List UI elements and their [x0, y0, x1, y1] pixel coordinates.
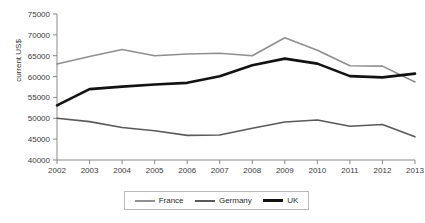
x-tick-label: 2003: [81, 166, 99, 175]
x-tick-label: 2010: [308, 166, 326, 175]
y-tick-label: 55000: [28, 93, 51, 102]
x-tick-label: 2004: [113, 166, 131, 175]
y-tick-label: 65000: [28, 52, 51, 61]
legend-label-france: France: [159, 196, 184, 205]
series-line-germany: [57, 118, 415, 136]
legend-item-france[interactable]: France: [135, 196, 184, 205]
plot-area: 4000045000500005500060000650007000075000…: [0, 0, 425, 223]
legend-label-germany: Germany: [219, 196, 252, 205]
y-tick-label: 70000: [28, 31, 51, 40]
x-tick-label: 2006: [178, 166, 196, 175]
legend-swatch-germany: [195, 200, 215, 202]
legend-item-germany[interactable]: Germany: [195, 196, 252, 205]
y-tick-label: 45000: [28, 135, 51, 144]
y-tick-label: 75000: [28, 10, 51, 19]
legend-item-uk[interactable]: UK: [263, 196, 298, 205]
y-tick-label: 50000: [28, 114, 51, 123]
x-tick-label: 2009: [276, 166, 294, 175]
x-tick-label: 2005: [146, 166, 164, 175]
y-axis: 4000045000500005500060000650007000075000: [28, 10, 57, 165]
legend: France Germany UK: [124, 191, 309, 210]
x-axis: 2002200320042005200620072008200920102011…: [48, 160, 424, 175]
y-tick-label: 60000: [28, 73, 51, 82]
series-lines: [57, 38, 415, 137]
x-tick-label: 2008: [243, 166, 261, 175]
y-tick-label: 40000: [28, 156, 51, 165]
x-tick-label: 2011: [341, 166, 359, 175]
x-tick-label: 2002: [48, 166, 66, 175]
legend-swatch-france: [135, 200, 155, 202]
line-chart: current US$ 4000045000500005500060000650…: [0, 0, 425, 223]
legend-label-uk: UK: [287, 196, 298, 205]
x-tick-label: 2007: [211, 166, 229, 175]
x-tick-label: 2013: [406, 166, 424, 175]
legend-swatch-uk: [263, 199, 283, 202]
x-tick-label: 2012: [374, 166, 392, 175]
